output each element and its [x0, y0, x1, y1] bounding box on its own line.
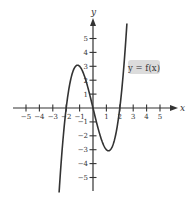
x-tick-label: −3: [48, 113, 58, 121]
x-axis-arrow-icon: [170, 105, 178, 111]
x-tick-label: 4: [144, 113, 149, 121]
y-tick-label: 5: [84, 35, 88, 43]
curve-label: y = f(x): [127, 60, 160, 74]
y-tick-label: −1: [78, 118, 88, 126]
y-tick-label: −5: [78, 174, 88, 182]
curve-label-text: y = f(x): [127, 63, 160, 73]
y-tick-label: −3: [78, 146, 88, 154]
y-tick-label: −4: [78, 160, 89, 168]
x-tick-label: 3: [131, 113, 135, 121]
x-tick-label: −4: [34, 113, 45, 121]
x-tick-label: 1: [104, 113, 108, 121]
x-tick-label: −5: [21, 113, 31, 121]
x-tick-label: 5: [158, 113, 162, 121]
x-axis-label: x: [180, 103, 185, 113]
y-axis-label: y: [90, 7, 97, 17]
y-tick-label: 4: [84, 49, 89, 57]
axes: [13, 18, 178, 191]
y-axis-arrow-icon: [90, 18, 96, 26]
function-graph: −5−4−3−2−112345−5−4−3−2−112345 y = f(x) …: [0, 0, 192, 203]
y-tick-label: 1: [84, 91, 88, 99]
y-tick-label: −2: [78, 132, 88, 140]
y-tick-label: 3: [84, 63, 88, 71]
